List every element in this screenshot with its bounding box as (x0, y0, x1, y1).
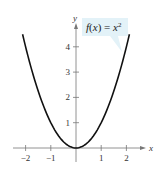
chart: f(x) = x2 x y −2−112 1234 (0, 0, 161, 174)
y-tick-label: 3 (66, 67, 71, 77)
y-axis-arrow-icon (74, 23, 78, 29)
function-label: f(x) = x2 (86, 21, 122, 34)
y-axis-label: y (72, 13, 77, 23)
x-tick-label: −2 (21, 153, 31, 163)
callout-pointer (110, 36, 122, 52)
x-tick-label: −1 (46, 153, 56, 163)
y-tick-label: 2 (66, 92, 71, 102)
x-axis-label: x (148, 143, 153, 153)
y-tick-label: 1 (66, 118, 71, 128)
x-axis-arrow-icon (140, 146, 146, 150)
x-tick-label: 1 (99, 153, 104, 163)
x-tick-label: 2 (124, 153, 129, 163)
y-ticks: 1234 (66, 42, 80, 128)
y-tick-label: 4 (66, 42, 71, 52)
